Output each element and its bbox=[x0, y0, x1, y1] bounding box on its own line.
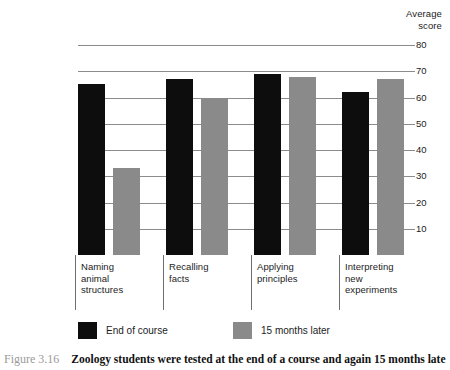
bar-interpreting-new-experiments-end-of-course bbox=[342, 92, 369, 255]
y-tick-label-40: 40 bbox=[416, 145, 442, 155]
y-axis-title-line1: Average bbox=[364, 8, 442, 20]
gridline-70 bbox=[78, 71, 408, 72]
bar-naming-animal-structures-15-months-later bbox=[113, 168, 140, 255]
bar-recalling-facts-15-months-later bbox=[201, 98, 228, 256]
category-separator-recalling-facts bbox=[163, 255, 164, 310]
y-tick-label-70: 70 bbox=[416, 66, 442, 76]
legend-swatch-grey bbox=[233, 322, 252, 339]
category-separator-naming-animal-structures bbox=[75, 255, 76, 310]
legend-swatch-black bbox=[78, 322, 97, 339]
y-tick-label-80: 80 bbox=[416, 40, 442, 50]
category-separator-applying-principles bbox=[251, 255, 252, 310]
bar-interpreting-new-experiments-15-months-later bbox=[377, 79, 404, 255]
legend-item-15-months-later: 15 months later bbox=[233, 320, 330, 340]
category-label-recalling-facts: Recalling facts bbox=[169, 261, 249, 284]
category-label-naming-animal-structures: Naming animal structures bbox=[81, 261, 161, 296]
category-separator-interpreting-new-experiments bbox=[339, 255, 340, 310]
y-tick-label-30: 30 bbox=[416, 171, 442, 181]
y-axis-title-line2: score bbox=[364, 20, 442, 32]
tick-dash-50 bbox=[408, 124, 415, 125]
legend-label-15-months-later: 15 months later bbox=[261, 325, 330, 336]
tick-dash-60 bbox=[408, 98, 415, 99]
y-tick-label-50: 50 bbox=[416, 119, 442, 129]
gridline-80 bbox=[78, 45, 408, 46]
tick-dash-30 bbox=[408, 176, 415, 177]
y-tick-label-10: 10 bbox=[416, 224, 442, 234]
legend-item-end-of-course: End of course bbox=[78, 320, 168, 340]
figure-caption-text: Zoology students were tested at the end … bbox=[71, 353, 445, 365]
tick-dash-40 bbox=[408, 150, 415, 151]
y-tick-label-20: 20 bbox=[416, 198, 442, 208]
tick-dash-10 bbox=[408, 229, 415, 230]
bar-applying-principles-15-months-later bbox=[289, 77, 316, 256]
bar-naming-animal-structures-end-of-course bbox=[78, 84, 105, 255]
bar-recalling-facts-end-of-course bbox=[166, 79, 193, 255]
tick-dash-20 bbox=[408, 203, 415, 204]
figure-number: Figure 3.16 bbox=[4, 352, 59, 367]
chart-legend: End of course 15 months later bbox=[78, 320, 408, 342]
plot-area: 8070605040302010 bbox=[78, 45, 408, 255]
figure-container: Average score 8070605040302010 Naming an… bbox=[0, 0, 450, 370]
tick-dash-80 bbox=[408, 45, 415, 46]
tick-dash-70 bbox=[408, 71, 415, 72]
y-tick-label-60: 60 bbox=[416, 93, 442, 103]
y-axis-title: Average score bbox=[364, 8, 442, 31]
category-label-applying-principles: Applying principles bbox=[257, 261, 337, 284]
legend-label-end-of-course: End of course bbox=[106, 325, 168, 336]
figure-caption: Figure 3.16 Zoology students were tested… bbox=[4, 352, 450, 367]
category-label-interpreting-new-experiments: Interpreting new experiments bbox=[345, 261, 425, 296]
bar-applying-principles-end-of-course bbox=[254, 74, 281, 255]
